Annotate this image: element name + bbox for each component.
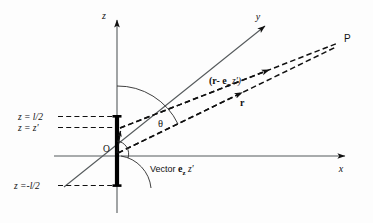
axis-x-label: x <box>338 163 344 174</box>
label-vector-r: r <box>240 97 245 108</box>
label-vector-source: Vector ez z' <box>150 163 195 176</box>
label-point-p: P <box>344 33 351 44</box>
vector-r-arrowhead <box>118 94 239 153</box>
axis-y-label: y <box>255 11 261 22</box>
label-source-tail: z' <box>186 164 195 174</box>
svg-text:Vector ez z': Vector ez z' <box>150 163 195 176</box>
label-vector-displacement: (r- ez z') <box>209 75 241 88</box>
vector-diagram-svg: z y x <box>0 0 373 223</box>
svg-text:(r- ez z'): (r- ez z') <box>209 75 241 88</box>
axis-z: z <box>101 10 117 213</box>
label-origin: O <box>103 144 110 154</box>
label-z-bottom: z =-l/2 <box>13 181 40 191</box>
label-z-mid: z = z' <box>17 123 40 133</box>
axis-x: x <box>54 156 345 174</box>
diagram-canvas: z y x <box>0 0 373 223</box>
label-theta: θ <box>158 118 163 129</box>
axis-z-label: z <box>101 10 106 21</box>
axis-y-line <box>64 26 265 187</box>
axis-y: y <box>64 11 265 187</box>
label-displacement-head: (r- e <box>209 75 227 87</box>
angle-arc-theta <box>117 86 178 124</box>
label-displacement-tail: z') <box>230 76 241 87</box>
vector-r <box>118 47 336 153</box>
label-z-top: z = l/2 <box>17 112 43 122</box>
label-source-prefix: Vector <box>150 164 178 174</box>
leader-arc-vector-callout <box>121 156 151 188</box>
